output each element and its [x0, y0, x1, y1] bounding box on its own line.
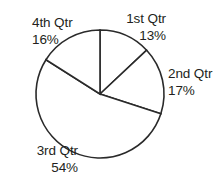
pie-chart-figure: 4th Qtr 16% 1st Qtr 13% 2nd Qtr 17% 3rd …: [0, 0, 219, 179]
pie-label-4th-qtr-value: 16%: [32, 32, 73, 49]
pie-label-1st-qtr: 1st Qtr 13%: [104, 11, 166, 44]
pie-label-2nd-qtr-value: 17%: [168, 83, 212, 100]
pie-label-1st-qtr-value: 13%: [104, 28, 166, 45]
pie-label-3rd-qtr-name: 3rd Qtr: [6, 143, 78, 160]
pie-label-4th-qtr: 4th Qtr 16%: [32, 15, 73, 48]
pie-label-3rd-qtr: 3rd Qtr 54%: [6, 143, 78, 176]
pie-label-2nd-qtr: 2nd Qtr 17%: [168, 66, 212, 99]
pie-label-4th-qtr-name: 4th Qtr: [32, 15, 73, 32]
pie-label-3rd-qtr-value: 54%: [6, 160, 78, 177]
pie-label-2nd-qtr-name: 2nd Qtr: [168, 66, 212, 83]
pie-label-1st-qtr-name: 1st Qtr: [104, 11, 166, 28]
